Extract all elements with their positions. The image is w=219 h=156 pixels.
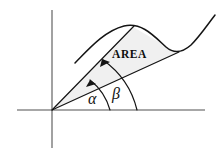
beta-label: β (111, 85, 120, 103)
alpha-label: α (88, 90, 97, 107)
diagram-canvas: AREA α β (0, 0, 219, 156)
area-label: AREA (112, 48, 147, 60)
